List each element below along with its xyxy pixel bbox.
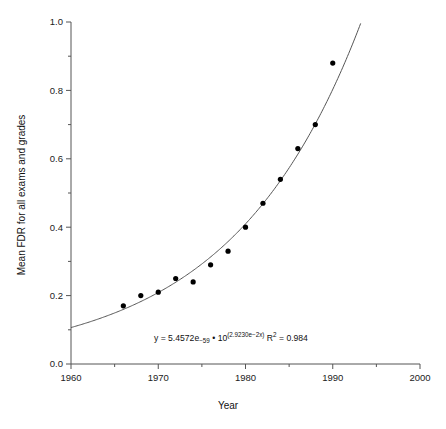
equation-part: • 10	[210, 333, 228, 343]
equation-part: (2.9230e−2x)	[227, 331, 264, 339]
data-point	[295, 146, 300, 151]
regression-equation-label: y = 5.4572e−59 • 10(2.9230e−2x) R2 = 0.9…	[154, 331, 308, 344]
chart-root: 0.00.20.40.60.81.0 19601970198019902000 …	[0, 0, 446, 429]
y-axis-tick-labels: 0.00.20.40.60.81.0	[50, 16, 63, 369]
data-point	[243, 225, 248, 230]
data-point	[121, 303, 126, 308]
y-tick-label: 0.8	[50, 85, 63, 96]
data-point	[260, 201, 265, 206]
y-tick-label: 1.0	[50, 16, 63, 27]
x-tick-label: 1980	[235, 372, 256, 383]
regression-fit-curve	[71, 23, 361, 327]
x-tick-label: 1970	[148, 372, 169, 383]
y-tick-label: 0.6	[50, 153, 63, 164]
y-axis-ticks	[66, 22, 71, 364]
y-axis-title: Mean FDR for all exams and grades	[16, 115, 27, 276]
y-tick-label: 0.4	[50, 222, 63, 233]
data-point-group	[121, 60, 336, 308]
x-axis-title: Year	[218, 400, 239, 411]
x-tick-label: 1990	[322, 372, 343, 383]
equation-part: −59	[199, 337, 210, 344]
data-point	[330, 60, 335, 65]
equation-part: y = 5.4572e	[154, 333, 199, 343]
equation-part: = 0.984	[277, 333, 309, 343]
axes-group	[71, 22, 420, 364]
data-point	[156, 290, 161, 295]
data-point	[138, 293, 143, 298]
data-point	[208, 262, 213, 267]
data-point	[313, 122, 318, 127]
fdr-vs-year-scatter-chart: 0.00.20.40.60.81.0 19601970198019902000 …	[0, 0, 446, 429]
y-tick-label: 0.0	[50, 358, 63, 369]
data-point	[278, 177, 283, 182]
equation-part: R	[264, 333, 273, 343]
x-tick-label: 1960	[60, 372, 81, 383]
x-axis-tick-labels: 19601970198019902000	[60, 372, 430, 383]
data-point	[191, 279, 196, 284]
y-tick-label: 0.2	[50, 290, 63, 301]
data-point	[173, 276, 178, 281]
x-axis-ticks	[71, 364, 420, 369]
x-tick-label: 2000	[409, 372, 430, 383]
data-point	[225, 249, 230, 254]
